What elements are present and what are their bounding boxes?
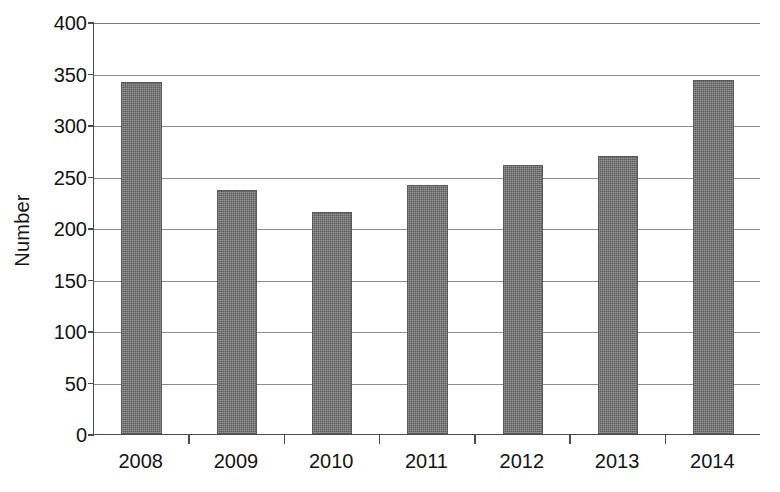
plot-area: [93, 23, 760, 435]
x-axis-tick-marks: [93, 435, 760, 444]
y-axis-tick-label: 250: [38, 168, 87, 188]
x-axis-tick-label: 2008: [93, 448, 188, 474]
y-axis-tick-label: 350: [38, 65, 87, 85]
x-axis-tick-mark: [284, 435, 286, 444]
y-axis-tick-label: 0: [38, 425, 87, 445]
y-axis-tick-label: 400: [38, 13, 87, 33]
y-axis-tick-labels: 050100150200250300350400: [38, 23, 87, 435]
bar-2013: [598, 156, 638, 434]
y-axis-tick-label: 200: [38, 219, 87, 239]
x-axis-tick-label: 2011: [379, 448, 474, 474]
x-axis-tick-label: 2010: [284, 448, 379, 474]
x-axis-tick-mark: [188, 435, 190, 444]
x-axis-tick-mark: [569, 435, 571, 444]
x-axis-tick-labels: 2008200920102011201220132014: [93, 448, 760, 482]
bar-2009: [217, 190, 257, 434]
x-axis-tick-label: 2012: [474, 448, 569, 474]
y-axis-tick-label: 150: [38, 271, 87, 291]
bar-2010: [312, 212, 352, 434]
x-axis-tick-label: 2009: [188, 448, 283, 474]
x-axis-tick-mark: [379, 435, 381, 444]
bars-group: [94, 23, 760, 434]
y-axis-tick-label: 100: [38, 322, 87, 342]
x-axis-tick-label: 2014: [665, 448, 760, 474]
x-axis-tick-mark: [665, 435, 667, 444]
y-axis-tick-label: 50: [38, 374, 87, 394]
bar-2014: [693, 80, 733, 434]
bar-2011: [407, 185, 447, 434]
y-axis-title-label: Number: [11, 194, 34, 266]
x-axis-tick-mark: [474, 435, 476, 444]
y-axis-tick-label: 300: [38, 116, 87, 136]
bar-2012: [503, 165, 543, 434]
bar-chart-figure: Number 050100150200250300350400 20082009…: [0, 0, 780, 492]
bar-2008: [121, 82, 161, 434]
x-axis-tick-label: 2013: [569, 448, 664, 474]
